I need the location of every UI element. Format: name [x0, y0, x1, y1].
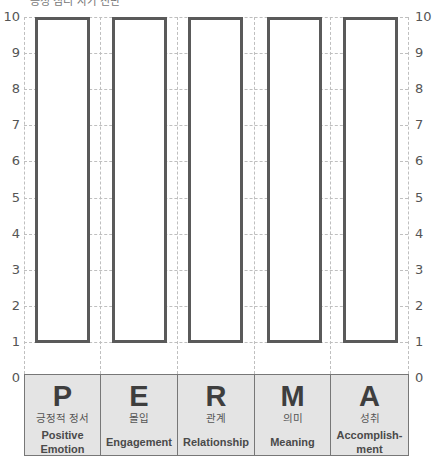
category-english-label: Positive: [25, 428, 100, 442]
gridline-vertical: [24, 17, 25, 374]
category-english-label: Engagement: [101, 435, 177, 449]
category-korean-label: 관계: [178, 412, 254, 425]
y-tick-right: 9: [415, 46, 433, 60]
category-letter: M: [255, 381, 330, 411]
y-tick-right: 5: [415, 191, 433, 205]
gridline-vertical: [100, 17, 101, 374]
y-tick-right: 7: [415, 118, 433, 132]
y-tick-left: 9: [2, 46, 20, 60]
category-korean-label: 성취: [331, 412, 408, 425]
category-english-label-line2: Emotion: [25, 442, 100, 456]
y-tick-right: 2: [415, 299, 433, 313]
gridline-vertical: [330, 17, 331, 374]
y-tick-right: 4: [415, 227, 433, 241]
category-korean-label: 긍정적 정서: [25, 412, 100, 425]
bar-e: [112, 17, 167, 343]
gridline-vertical: [177, 17, 178, 374]
category-english-label: Relationship: [178, 435, 254, 449]
category-letter: P: [25, 381, 100, 411]
category-a: A성취Accomplish-ment: [330, 374, 409, 456]
bar-a: [343, 17, 398, 343]
category-letter: A: [331, 381, 408, 411]
y-tick-left: 10: [2, 10, 20, 24]
y-tick-right: 10: [415, 10, 433, 24]
y-tick-left: 5: [2, 191, 20, 205]
bar-m: [267, 17, 322, 343]
category-korean-label: 몰입: [101, 412, 177, 425]
category-e: E몰입Engagement: [100, 374, 178, 456]
category-english-label-line2: ment: [331, 442, 408, 456]
category-english-label: Meaning: [255, 435, 330, 449]
y-tick-right: 0: [415, 371, 433, 385]
category-p: P긍정적 정서PositiveEmotion: [24, 374, 101, 456]
category-letter: E: [101, 381, 177, 411]
y-tick-left: 7: [2, 118, 20, 132]
y-tick-left: 0: [2, 371, 20, 385]
perma-chart: 101099887766554433221100P긍정적 정서PositiveE…: [0, 0, 435, 467]
y-tick-right: 3: [415, 263, 433, 277]
y-tick-left: 2: [2, 299, 20, 313]
bar-r: [188, 17, 243, 343]
y-tick-left: 8: [2, 82, 20, 96]
y-tick-right: 6: [415, 154, 433, 168]
y-tick-left: 4: [2, 227, 20, 241]
gridline-vertical: [408, 17, 409, 374]
gridline-vertical: [254, 17, 255, 374]
category-english-label: Accomplish-: [331, 428, 408, 442]
y-tick-left: 1: [2, 335, 20, 349]
y-tick-left: 3: [2, 263, 20, 277]
bar-p: [35, 17, 90, 343]
y-tick-right: 8: [415, 82, 433, 96]
category-r: R관계Relationship: [177, 374, 255, 456]
category-letter: R: [178, 381, 254, 411]
category-korean-label: 의미: [255, 412, 330, 425]
y-tick-right: 1: [415, 335, 433, 349]
category-m: M의미Meaning: [254, 374, 331, 456]
y-tick-left: 6: [2, 154, 20, 168]
